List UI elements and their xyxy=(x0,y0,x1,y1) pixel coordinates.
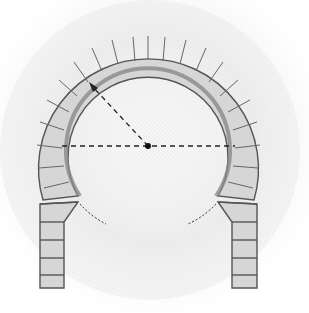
center-point xyxy=(145,143,151,149)
horseshoe-arch-diagram xyxy=(0,0,309,313)
